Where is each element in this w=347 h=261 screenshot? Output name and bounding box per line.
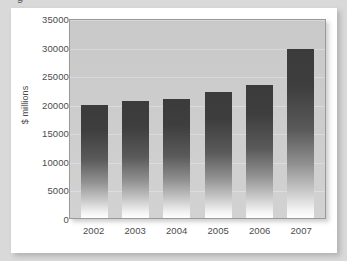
y-axis-tick-label: 35000 bbox=[13, 14, 69, 25]
x-axis-tick-label: 2003 bbox=[122, 225, 149, 236]
y-axis-tick-labels: 05000100001500020000250003000035000 bbox=[11, 8, 69, 253]
bar-2003 bbox=[122, 101, 149, 218]
bar-series bbox=[70, 20, 325, 218]
y-axis-tick-label: 5000 bbox=[13, 185, 69, 196]
y-axis-tick-label: 20000 bbox=[13, 99, 69, 110]
partial-caption-text: g bbox=[17, 0, 77, 3]
x-axis-tick-label: 2006 bbox=[246, 225, 273, 236]
bar-2006 bbox=[246, 85, 273, 218]
x-axis-tick-label: 2007 bbox=[288, 225, 315, 236]
y-axis-tick-label: 25000 bbox=[13, 71, 69, 82]
bar-chart: $ millions 05000100001500020000250003000… bbox=[11, 8, 337, 253]
bar-2004 bbox=[163, 99, 190, 218]
plot-panel bbox=[69, 19, 326, 219]
bar-2002 bbox=[81, 105, 108, 218]
x-axis-tick-label: 2004 bbox=[163, 225, 190, 236]
bar-2007 bbox=[287, 49, 314, 218]
x-axis-tick-label: 2002 bbox=[80, 225, 107, 236]
y-axis-tick-label: 15000 bbox=[13, 128, 69, 139]
bar-2005 bbox=[205, 92, 232, 218]
x-axis-tick-label: 2005 bbox=[205, 225, 232, 236]
y-axis-tick-label: 0 bbox=[13, 214, 69, 225]
figure-card: $ millions 05000100001500020000250003000… bbox=[11, 8, 337, 253]
y-axis-tick-label: 30000 bbox=[13, 42, 69, 53]
page-root: g $ millions 050001000015000200002500030… bbox=[0, 0, 347, 261]
x-axis-tick-labels: 200220032004200520062007 bbox=[69, 225, 326, 236]
y-axis-tick-label: 10000 bbox=[13, 156, 69, 167]
